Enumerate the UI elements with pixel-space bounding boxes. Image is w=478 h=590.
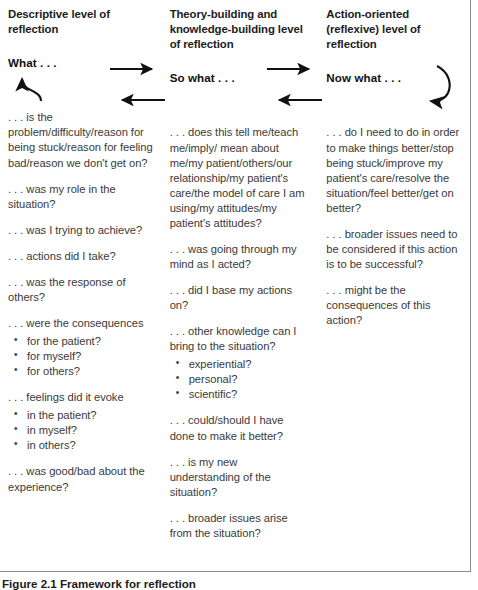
column-heading-theory-building: Theory-building and knowledge-building l… [170, 7, 310, 52]
column-descriptive-level: Descriptive level of reflection What . .… [0, 0, 163, 506]
reflection-prompt: . . . do I need to do in order to make t… [326, 125, 460, 215]
figure-frame: Descriptive level of reflection What . .… [0, 0, 471, 572]
reflection-prompt: . . . is my new understanding of the sit… [170, 455, 310, 500]
list-item: in the patient? [8, 408, 153, 423]
bullet-list-consequences: for the patient? for myself? for others? [8, 334, 153, 379]
list-item: for the patient? [8, 334, 153, 349]
reflection-prompt: . . . was going through my mind as I act… [170, 242, 310, 272]
list-item: in myself? [8, 423, 153, 438]
list-item: for myself? [8, 349, 153, 364]
column-heading-descriptive: Descriptive level of reflection [8, 7, 153, 37]
figure-caption-text: Framework for reflection [60, 577, 196, 590]
column-heading-action-oriented: Action-oriented (reflexive) level of ref… [326, 7, 460, 52]
column-stem-so-what: So what . . . [170, 71, 310, 85]
list-item: personal? [170, 372, 310, 387]
figure-caption: Figure 2.1 Framework for reflection [2, 577, 472, 590]
column-stem-what: What . . . [8, 56, 153, 70]
reflection-prompt: . . . is the problem/difficulty/reason f… [8, 110, 153, 170]
reflection-prompt: . . . broader issues arise from the situ… [170, 511, 310, 541]
list-item: for others? [8, 364, 153, 379]
reflection-prompt: . . . might be the consequences of this … [326, 283, 460, 328]
column-theory-building-level: Theory-building and knowledge-building l… [163, 0, 320, 552]
figure-columns: Descriptive level of reflection What . .… [0, 0, 470, 571]
column-action-oriented-level: Action-oriented (reflexive) level of ref… [319, 0, 470, 339]
reflection-prompt: . . . was the response of others? [8, 275, 153, 305]
list-item: scientific? [170, 387, 310, 402]
bullet-list-knowledge: experiential? personal? scientific? [170, 357, 310, 402]
reflection-prompt: . . . was good/bad about the experience? [8, 464, 153, 494]
list-item: in others? [8, 438, 153, 453]
reflection-prompt: . . . actions did I take? [8, 249, 153, 264]
reflection-prompt: . . . broader issues need to be consider… [326, 227, 460, 272]
reflection-prompt: . . . was my role in the situation? [8, 182, 153, 212]
column-stem-now-what: Now what . . . [326, 71, 460, 85]
reflection-prompt: . . . does this tell me/teach me/imply/ … [170, 125, 310, 230]
reflection-prompt: . . . were the consequences [8, 316, 153, 331]
reflection-prompt: . . . could/should I have done to make i… [170, 413, 310, 443]
reflection-prompt: . . . feelings did it evoke [8, 390, 153, 405]
reflection-prompt: . . . did I base my actions on? [170, 283, 310, 313]
bullet-list-feelings: in the patient? in myself? in others? [8, 408, 153, 453]
figure-caption-number: Figure 2.1 [2, 577, 57, 590]
reflection-prompt: . . . was I trying to achieve? [8, 223, 153, 238]
reflection-prompt: . . . other knowledge can I bring to the… [170, 324, 310, 354]
list-item: experiential? [170, 357, 310, 372]
